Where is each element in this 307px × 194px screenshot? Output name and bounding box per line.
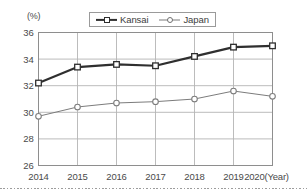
data-point-marker xyxy=(75,104,81,110)
chart-legend: Kansai Japan xyxy=(89,12,216,27)
data-point-marker xyxy=(36,113,42,119)
y-tick-label: 34 xyxy=(23,54,33,65)
y-tick-label: 28 xyxy=(23,133,33,144)
data-point-marker xyxy=(114,62,120,68)
x-tick-label: 2020(Year) xyxy=(244,171,289,182)
y-tick-label: 36 xyxy=(23,27,33,38)
legend-item-kansai[interactable]: Kansai xyxy=(96,15,148,25)
data-point-marker xyxy=(270,43,276,49)
y-tick-label: 26 xyxy=(23,160,33,171)
line-chart-figure: (%) Kansai Japan 262830323436 2014201520… xyxy=(0,0,307,194)
data-point-marker xyxy=(231,88,237,94)
bottom-dotted-divider xyxy=(0,188,307,189)
legend-item-japan[interactable]: Japan xyxy=(159,15,208,25)
data-point-marker xyxy=(114,100,120,106)
legend-marker-japan-icon xyxy=(159,15,180,24)
x-tick-label: 2015 xyxy=(67,171,87,182)
data-point-marker xyxy=(153,99,159,105)
x-tick-label: 2014 xyxy=(28,171,48,182)
legend-marker-kansai-icon xyxy=(96,15,117,24)
plot-area: 262830323436 201420152016201720182019202… xyxy=(0,0,307,194)
data-point-marker xyxy=(192,54,198,60)
data-point-marker xyxy=(270,94,276,100)
y-tick-label: 32 xyxy=(23,80,33,91)
x-tick-label: 2018 xyxy=(184,171,204,182)
y-tick-label: 30 xyxy=(23,107,33,118)
legend-label-kansai: Kansai xyxy=(120,15,148,25)
x-tick-label: 2017 xyxy=(145,171,165,182)
legend-label-japan: Japan xyxy=(183,15,208,25)
data-point-marker xyxy=(192,96,198,102)
data-point-marker xyxy=(36,80,42,86)
x-tick-label: 2016 xyxy=(106,171,126,182)
x-tick-label: 2019 xyxy=(223,171,243,182)
data-point-marker xyxy=(153,63,159,69)
data-point-marker xyxy=(75,64,81,70)
x-axis-tick-labels: 2014201520162017201820192020(Year) xyxy=(28,171,289,182)
data-point-marker xyxy=(231,44,237,50)
y-axis-tick-labels: 262830323436 xyxy=(23,27,33,171)
